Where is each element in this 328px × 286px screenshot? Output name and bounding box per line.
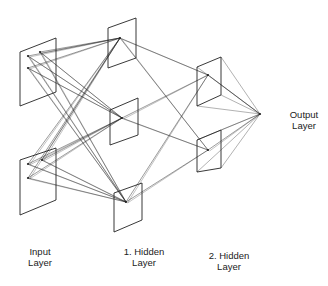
connection-line [124,75,209,119]
input-node [27,177,29,179]
connection-line [42,53,127,202]
input-node [41,159,43,161]
connection-line [221,95,260,114]
hidden1-node [119,37,121,39]
input-node [27,163,29,165]
input-node [27,67,29,69]
output-layer-label: Output Layer [284,109,324,131]
input-label-line2: Layer [20,257,60,268]
network-graphic [0,0,328,286]
hidden2-plane-0 [197,57,221,106]
hidden2-layer-label: 2. Hidden Layer [201,250,257,272]
connection-line [126,75,208,202]
connection-line [30,165,127,202]
input-node [27,55,29,57]
hidden2-plane-1 [197,130,221,172]
neural-network-diagram: Input Layer 1. Hidden Layer 2. Hidden La… [0,0,328,286]
connection-line [197,114,260,172]
hidden2-label-line2: Layer [201,261,257,272]
hidden1-label-line2: Layer [116,257,172,268]
hidden2-node [207,74,209,76]
connection-line [128,75,209,203]
connection-line [28,38,120,178]
connection-line [210,114,261,151]
connection-line [221,57,260,114]
hidden1-layer-label: 1. Hidden Layer [116,246,172,268]
input-node [39,51,41,53]
hidden1-node [125,201,127,203]
connection-line [28,38,120,164]
input-label-line1: Input [20,246,60,257]
connection-line [30,57,127,202]
connection-line [122,39,209,150]
input-plane-0 [20,38,56,106]
connection-line [30,69,123,118]
connection-line [44,38,121,161]
connection-line [124,119,209,150]
hidden2-node [207,149,209,151]
input-layer-label: Input Layer [20,246,60,268]
hidden1-label-line1: 1. Hidden [116,246,172,257]
input-plane-1 [20,148,56,215]
output-label-line2: Layer [284,120,324,131]
hidden2-label-line1: 2. Hidden [201,250,257,261]
output-label-line1: Output [284,109,324,120]
connection-line [30,38,121,179]
hidden1-node [121,117,123,119]
connection-line [128,150,209,203]
connection-line [122,39,209,75]
connection-line [42,53,123,118]
output-node [259,113,261,115]
